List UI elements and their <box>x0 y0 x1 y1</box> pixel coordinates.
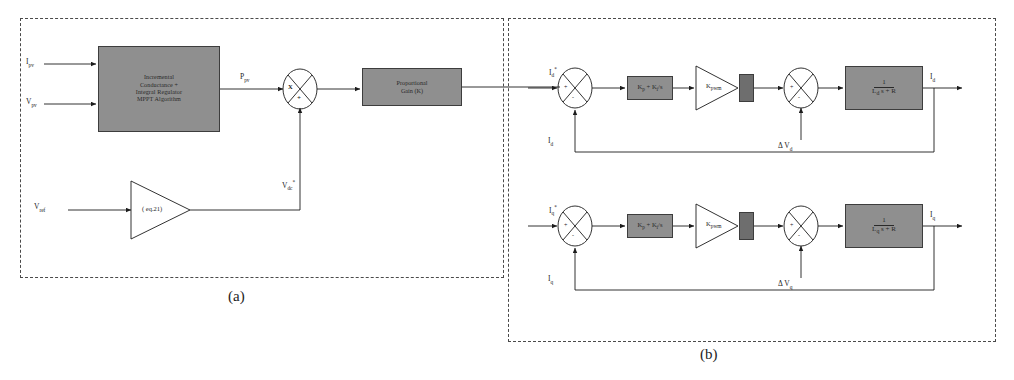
pi-controller-q-block: Kp + Ki/s <box>627 214 673 238</box>
id-feedback-label: Id <box>548 136 553 147</box>
delta-vq-label: Δ Vq <box>778 279 792 290</box>
multiplier-plus-sign: + <box>297 94 301 102</box>
limiter-d-block <box>739 74 754 102</box>
dist-q-plus-sign: + <box>790 222 793 228</box>
id-reference-label: Id* <box>549 66 557 78</box>
iq-output-label: Iq <box>930 210 935 221</box>
sum-q-plus-sign: + <box>564 222 567 228</box>
proportional-gain-block: Proportional Gain (K) <box>362 68 462 106</box>
mppt-line-1: Incremental <box>144 74 174 80</box>
pgain-line-2: Gain (K) <box>401 87 423 94</box>
pwm-gain-d-label: Kpwm <box>706 82 722 91</box>
vpv-input-label: Vpv <box>26 97 37 108</box>
iq-reference-label: Iq* <box>549 204 557 216</box>
pwm-gain-q-label: Kpwm <box>706 220 722 229</box>
panel-a-frame <box>20 18 504 278</box>
plant-d-numerator: 1 <box>872 79 896 86</box>
dist-d-plus-sign: + <box>790 84 793 90</box>
caption-b: (b) <box>700 346 718 363</box>
pgain-line-1: Proportional <box>397 79 428 86</box>
dist-q-minus-sign: - <box>798 232 800 238</box>
equation-amplifier-label: ( eq.21) <box>142 205 162 212</box>
plant-transfer-d-block: 1 Ld s + R <box>845 66 923 110</box>
sum-d-plus-sign: + <box>564 84 567 90</box>
mppt-line-2: Conductance + <box>140 82 178 88</box>
iq-feedback-label: Iq <box>548 274 553 285</box>
caption-a: (a) <box>228 288 245 305</box>
ppv-signal-label: Ppv <box>240 72 250 83</box>
plant-transfer-q-block: 1 Lq s + R <box>845 204 923 248</box>
mppt-line-4: MPPT Algorithm <box>137 96 181 102</box>
mppt-line-3: Integral Regulator <box>136 89 182 95</box>
plant-d-denominator: Ld s + R <box>872 88 896 97</box>
vdc-ref-signal-label: Vdc* <box>282 179 295 191</box>
sum-q-minus-sign: - <box>572 232 574 238</box>
limiter-q-block <box>739 212 754 240</box>
ipv-input-label: Ipv <box>26 57 34 68</box>
delta-vd-label: Δ Vd <box>778 141 792 152</box>
mppt-algorithm-block: Incremental Conductance + Integral Regul… <box>98 46 220 132</box>
vref-input-label: Vref <box>34 202 45 213</box>
sum-d-minus-sign: - <box>572 94 574 100</box>
plant-q-denominator: Lq s + R <box>872 226 896 235</box>
dist-d-minus-sign: - <box>798 94 800 100</box>
id-output-label: Id <box>930 72 935 83</box>
multiplier-x-sign: X <box>288 83 293 90</box>
plant-q-numerator: 1 <box>872 217 896 224</box>
pi-controller-d-block: Kp + Ki/s <box>627 76 673 100</box>
